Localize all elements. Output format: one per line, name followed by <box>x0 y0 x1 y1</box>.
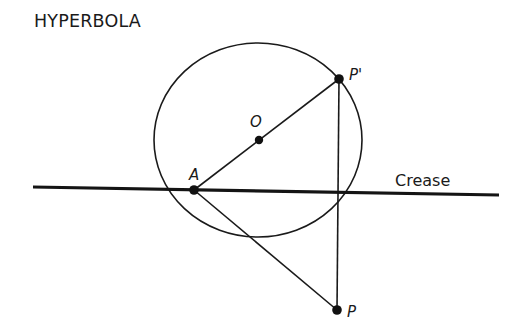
hyperbola-crease-diagram: HYPERBOLA O A P' P Crease <box>0 0 520 328</box>
segment-a-p <box>194 190 337 310</box>
point-a <box>189 185 199 195</box>
point-o <box>255 136 263 144</box>
label-o: O <box>250 113 262 131</box>
figure-title: HYPERBOLA <box>34 11 141 31</box>
segment-p-prime-p <box>337 79 339 310</box>
point-p-prime <box>334 74 344 84</box>
point-p <box>332 305 342 315</box>
label-a: A <box>188 166 199 184</box>
label-crease: Crease <box>395 171 450 190</box>
label-p-prime: P' <box>349 66 362 84</box>
label-p: P <box>347 303 357 321</box>
segment-a-p-prime <box>194 79 339 190</box>
